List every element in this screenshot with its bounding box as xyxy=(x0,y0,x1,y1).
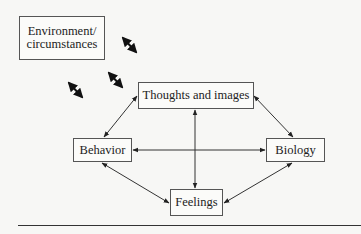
edge-biology-feelings xyxy=(224,163,292,203)
node-thoughts: Thoughts and images xyxy=(138,82,254,109)
node-feelings: Feelings xyxy=(170,189,223,216)
env-arrow-2 xyxy=(109,73,122,87)
node-environment: Environment/ circumstances xyxy=(19,16,105,60)
node-environment-label-2: circumstances xyxy=(27,38,98,51)
node-feelings-label: Feelings xyxy=(175,196,217,209)
env-arrow-1 xyxy=(123,38,136,52)
edge-thoughts-behavior xyxy=(104,96,137,137)
node-biology-label: Biology xyxy=(275,144,315,157)
node-behavior: Behavior xyxy=(73,138,132,162)
env-arrow-3 xyxy=(69,83,82,97)
node-behavior-label: Behavior xyxy=(80,144,126,157)
bottom-rule xyxy=(18,225,361,226)
node-thoughts-label: Thoughts and images xyxy=(143,89,250,102)
node-biology: Biology xyxy=(266,138,325,162)
edge-thoughts-biology xyxy=(254,96,293,137)
edge-behavior-feelings xyxy=(102,163,169,203)
